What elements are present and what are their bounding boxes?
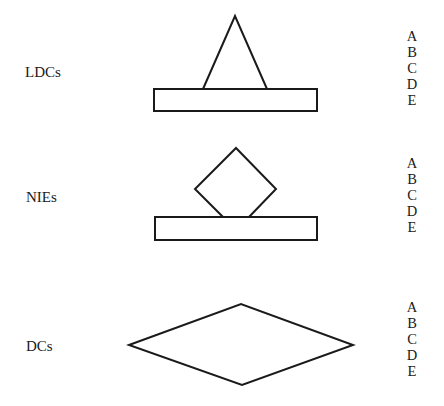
letter: E [405, 92, 419, 108]
letter: A [405, 299, 419, 315]
nies-base-bar [155, 217, 317, 240]
ldcs-figure [154, 16, 317, 111]
letter: E [405, 219, 419, 235]
letters-dcs: A B C D E [405, 299, 419, 379]
letters-nies: A B C D E [405, 155, 419, 235]
letter: C [405, 331, 419, 347]
nies-figure [155, 148, 317, 240]
letter: B [405, 315, 419, 331]
letter: C [405, 60, 419, 76]
letter: C [405, 187, 419, 203]
letter: B [405, 44, 419, 60]
ldcs-base-bar [154, 89, 317, 111]
letter: B [405, 171, 419, 187]
letter: D [405, 76, 419, 92]
nies-diamond [195, 148, 276, 217]
letter: A [405, 155, 419, 171]
dcs-rhombus [129, 304, 353, 385]
diagram-canvas [0, 0, 444, 406]
dcs-figure [129, 304, 353, 385]
letter: D [405, 203, 419, 219]
ldcs-triangle [203, 16, 267, 89]
letters-ldcs: A B C D E [405, 28, 419, 108]
letter: A [405, 28, 419, 44]
letter: E [405, 363, 419, 379]
letter: D [405, 347, 419, 363]
